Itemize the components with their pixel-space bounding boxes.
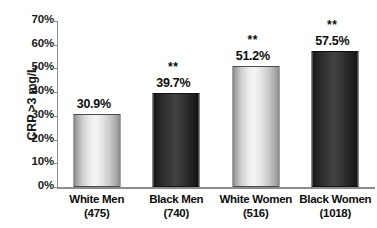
bar-group-white-men: 30.9% bbox=[57, 21, 137, 187]
y-tick-70: 70% bbox=[0, 21, 64, 22]
category-label-black-men: Black Men (740) bbox=[137, 192, 217, 220]
bar-group-white-women: ** 51.2% bbox=[216, 21, 296, 187]
significance-mark-1: ** bbox=[168, 61, 178, 73]
category-n-2: (516) bbox=[216, 206, 296, 220]
bar-value-label-2: 51.2% bbox=[236, 49, 270, 63]
y-tick-label-30: 30% bbox=[32, 108, 54, 120]
category-name-3: Black Women bbox=[296, 192, 376, 206]
y-tick-30: 30% bbox=[0, 116, 64, 117]
category-label-white-men: White Men (475) bbox=[57, 192, 137, 220]
y-tick-50: 50% bbox=[0, 68, 64, 69]
bar-group-black-men: ** 39.7% bbox=[137, 21, 217, 187]
y-tick-label-0: 0% bbox=[38, 179, 54, 191]
y-tick-label-40: 40% bbox=[32, 84, 54, 96]
category-name-0: White Men bbox=[57, 192, 137, 206]
bar-value-label-0: 30.9% bbox=[77, 97, 111, 111]
bar-white-men bbox=[73, 114, 120, 187]
y-tick-label-20: 20% bbox=[32, 132, 54, 144]
category-n-1: (740) bbox=[137, 206, 217, 220]
bar-value-label-1: 39.7% bbox=[156, 76, 190, 90]
category-n-3: (1018) bbox=[296, 206, 376, 220]
y-tick-0: 0% bbox=[0, 187, 64, 188]
bar-value-label-3: 57.5% bbox=[315, 34, 349, 48]
x-axis-line bbox=[57, 187, 375, 189]
y-tick-label-10: 10% bbox=[32, 155, 54, 167]
bar-group-black-women: ** 57.5% bbox=[296, 21, 376, 187]
bar-black-men bbox=[153, 93, 200, 187]
category-labels: White Men (475) Black Men (740) White Wo… bbox=[57, 192, 375, 228]
bar-black-women bbox=[312, 51, 359, 187]
y-axis-title: CRP >3 mg/L bbox=[25, 33, 39, 173]
y-tick-label-60: 60% bbox=[32, 37, 54, 49]
y-tick-40: 40% bbox=[0, 92, 64, 93]
category-label-white-women: White Women (516) bbox=[216, 192, 296, 220]
y-tick-60: 60% bbox=[0, 45, 64, 46]
plot-area: 30.9% ** 39.7% ** 51.2% ** 57.5% bbox=[57, 21, 375, 187]
y-tick-label-70: 70% bbox=[32, 13, 54, 25]
category-name-2: White Women bbox=[216, 192, 296, 206]
category-label-black-women: Black Women (1018) bbox=[296, 192, 376, 220]
bar-white-women bbox=[232, 66, 279, 187]
category-n-0: (475) bbox=[57, 206, 137, 220]
crp-bar-chart: CRP >3 mg/L 70% 60% 50% 40% 30% 20% 10% bbox=[0, 0, 377, 228]
y-tick-label-50: 50% bbox=[32, 60, 54, 72]
significance-mark-3: ** bbox=[327, 19, 337, 31]
category-name-1: Black Men bbox=[137, 192, 217, 206]
y-tick-20: 20% bbox=[0, 140, 64, 141]
y-tick-10: 10% bbox=[0, 163, 64, 164]
significance-mark-2: ** bbox=[248, 34, 258, 46]
